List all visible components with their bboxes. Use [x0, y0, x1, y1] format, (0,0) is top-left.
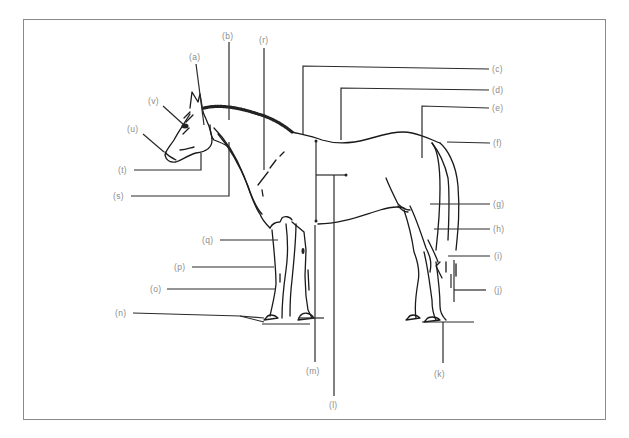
label-k: (k) — [434, 369, 445, 379]
label-j: (j) — [494, 285, 502, 295]
label-u: (u) — [127, 124, 138, 134]
hindleg-far — [424, 252, 436, 320]
label-h: (h) — [493, 224, 504, 234]
chestnut — [302, 248, 305, 254]
horse-drawing — [165, 92, 459, 322]
label-m: (m) — [306, 366, 320, 376]
label-i: (i) — [494, 251, 502, 261]
label-v: (v) — [148, 96, 159, 106]
diagram-canvas: (a) (b) (c) (d) (e) (f) (g) (h) (i) (j) … — [0, 0, 629, 438]
belly — [318, 207, 404, 224]
label-l: (l) — [329, 400, 337, 410]
topline — [292, 132, 440, 143]
label-t: (t) — [118, 165, 127, 175]
label-d: (d) — [492, 85, 503, 95]
label-a: (a) — [189, 52, 200, 62]
label-e: (e) — [492, 103, 503, 113]
label-g: (g) — [493, 199, 504, 209]
tail — [432, 143, 440, 250]
leader-lines — [131, 42, 490, 396]
label-f: (f) — [493, 138, 502, 148]
label-p: (p) — [174, 262, 185, 272]
label-b: (b) — [222, 31, 233, 41]
label-o: (o) — [150, 284, 161, 294]
hindleg-near — [404, 210, 419, 318]
label-n: (n) — [115, 308, 126, 318]
label-r: (r) — [259, 35, 268, 45]
label-c: (c) — [492, 64, 503, 74]
label-s: (s) — [113, 191, 124, 201]
foreleg-near — [270, 230, 276, 316]
mane — [204, 106, 292, 132]
shoulder-line — [258, 152, 284, 185]
label-q: (q) — [202, 235, 213, 245]
